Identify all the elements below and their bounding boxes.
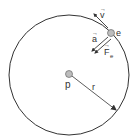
proton-label: p <box>65 79 71 90</box>
force-vector-mark: → <box>104 42 110 48</box>
velocity-vector-mark: → <box>100 6 106 12</box>
electron <box>108 30 115 37</box>
proton <box>66 71 73 78</box>
electron-label: e <box>116 28 121 38</box>
radius-label: r <box>92 82 95 92</box>
acceleration-vector-mark: → <box>92 30 98 36</box>
force-subscript: e <box>110 53 114 59</box>
orbit-diagram: v → e a → F e → p r <box>0 0 135 139</box>
